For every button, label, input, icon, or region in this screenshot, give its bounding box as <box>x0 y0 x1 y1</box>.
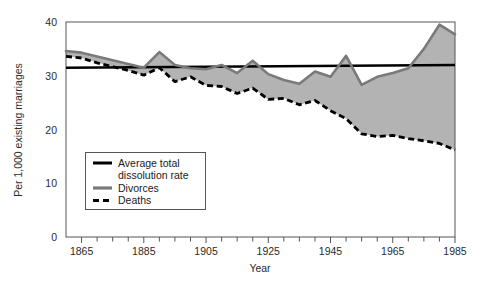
y-axis-title: Per 1,000 existing marriages <box>12 63 24 197</box>
legend-label-average-total-dissolution-rate-line2: dissolution rate <box>118 169 189 181</box>
y-tick-label: 0 <box>51 231 57 243</box>
y-tick-label: 10 <box>45 177 57 189</box>
x-tick-label: 1945 <box>319 245 343 257</box>
legend-label-divorces: Divorces <box>118 182 159 194</box>
y-tick-label: 30 <box>45 70 57 82</box>
legend-label-deaths: Deaths <box>118 194 151 206</box>
dissolution-rate-chart: 010203040 1865188519051925194519651985 P… <box>0 0 495 282</box>
x-tick-label: 1865 <box>70 245 94 257</box>
y-tick-label: 20 <box>45 124 57 136</box>
x-tick-label: 1905 <box>194 245 218 257</box>
x-tick-label: 1965 <box>381 245 405 257</box>
y-tick-label: 40 <box>45 16 57 28</box>
x-axis-title: Year <box>249 262 271 274</box>
x-tick-label: 1985 <box>443 245 467 257</box>
chart-legend: Average total dissolution rate Divorces … <box>86 153 206 210</box>
legend-label-average-total-dissolution-rate-line1: Average total <box>118 157 180 169</box>
x-tick-label: 1885 <box>132 245 156 257</box>
chart-container: 010203040 1865188519051925194519651985 P… <box>0 0 495 282</box>
x-tick-label: 1925 <box>257 245 281 257</box>
